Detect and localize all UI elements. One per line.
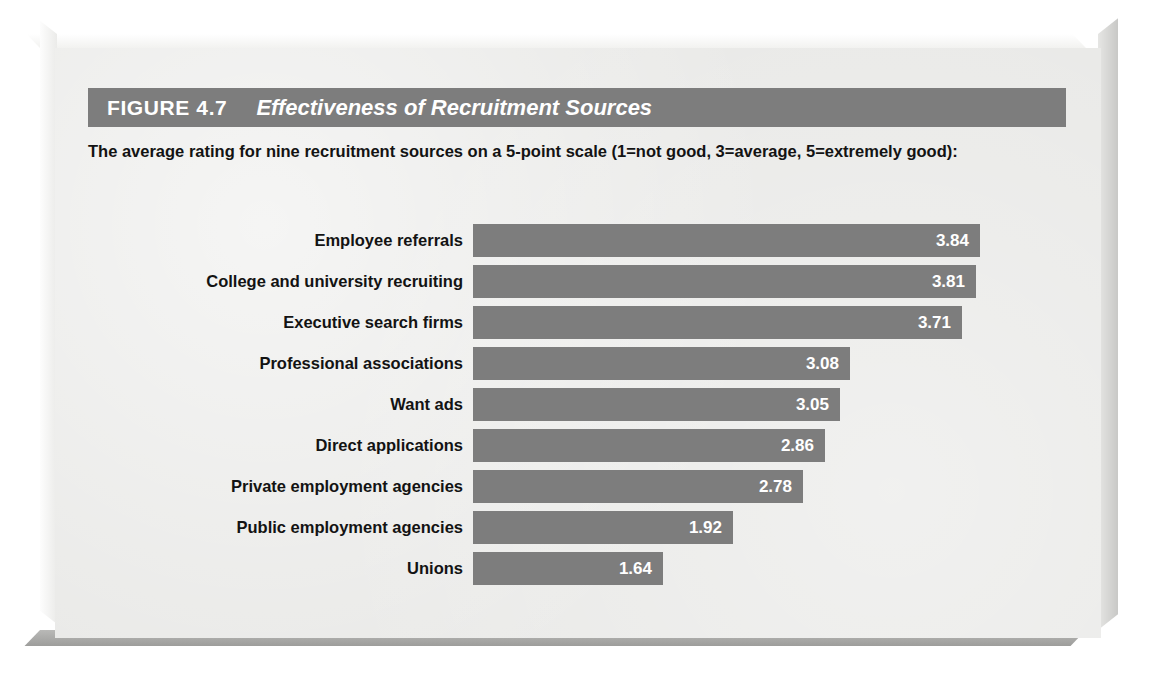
bar: 2.86 — [473, 429, 825, 462]
bar-value-label: 1.64 — [619, 559, 652, 579]
bar: 3.84 — [473, 224, 980, 257]
bar: 3.71 — [473, 306, 962, 339]
chart-row: Professional associations3.08 — [55, 347, 1101, 388]
bar: 3.81 — [473, 265, 976, 298]
figure-subtitle: The average rating for nine recruitment … — [88, 140, 1048, 163]
figure-card: FIGURE 4.7 Effectiveness of Recruitment … — [40, 34, 1118, 654]
chart-row: Private employment agencies2.78 — [55, 470, 1101, 511]
bar-value-label: 3.05 — [796, 395, 829, 415]
bar-value-label: 3.84 — [936, 231, 969, 251]
bar-category-label: Direct applications — [55, 429, 463, 462]
bar-value-label: 2.86 — [781, 436, 814, 456]
bar-chart: Employee referrals3.84College and univer… — [55, 224, 1101, 593]
bar-category-label: Private employment agencies — [55, 470, 463, 503]
chart-row: Employee referrals3.84 — [55, 224, 1101, 265]
bar: 1.92 — [473, 511, 733, 544]
card-bevel-top — [26, 34, 1086, 48]
bar-category-label: Employee referrals — [55, 224, 463, 257]
bar-value-label: 3.81 — [932, 272, 965, 292]
bar: 3.08 — [473, 347, 850, 380]
bar-category-label: Public employment agencies — [55, 511, 463, 544]
chart-row: Executive search firms3.71 — [55, 306, 1101, 347]
card-front-panel: FIGURE 4.7 Effectiveness of Recruitment … — [55, 48, 1101, 638]
figure-title-bar: FIGURE 4.7 Effectiveness of Recruitment … — [88, 88, 1066, 127]
bar-category-label: Unions — [55, 552, 463, 585]
chart-row: Public employment agencies1.92 — [55, 511, 1101, 552]
chart-row: College and university recruiting3.81 — [55, 265, 1101, 306]
bar-value-label: 3.08 — [806, 354, 839, 374]
chart-row: Unions1.64 — [55, 552, 1101, 593]
figure-title: Effectiveness of Recruitment Sources — [256, 95, 652, 121]
chart-row: Want ads3.05 — [55, 388, 1101, 429]
bar-category-label: Want ads — [55, 388, 463, 421]
bar: 2.78 — [473, 470, 803, 503]
bar: 3.05 — [473, 388, 840, 421]
card-bevel-right — [1098, 18, 1118, 630]
bar-category-label: College and university recruiting — [55, 265, 463, 298]
bar-category-label: Executive search firms — [55, 306, 463, 339]
bar-value-label: 2.78 — [759, 477, 792, 497]
figure-number: FIGURE 4.7 — [107, 96, 227, 120]
chart-row: Direct applications2.86 — [55, 429, 1101, 470]
bar-category-label: Professional associations — [55, 347, 463, 380]
bar-value-label: 3.71 — [918, 313, 951, 333]
bar: 1.64 — [473, 552, 663, 585]
bar-value-label: 1.92 — [689, 518, 722, 538]
